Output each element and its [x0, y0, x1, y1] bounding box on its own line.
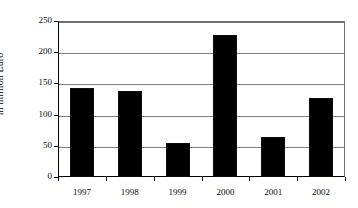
y-axis-tick — [54, 21, 58, 22]
x-axis-tick — [345, 177, 346, 181]
bar-2002 — [309, 98, 333, 177]
y-axis-tick — [54, 83, 58, 84]
y-axis-tick — [54, 146, 58, 147]
bar-1998 — [118, 91, 142, 177]
y-axis-tick-label: 200 — [12, 47, 52, 56]
bar-2000 — [213, 35, 237, 177]
x-axis-tick — [202, 177, 203, 181]
x-axis-tick-label: 2001 — [249, 187, 297, 197]
x-axis-tick-label: 2000 — [201, 187, 249, 197]
bar-1999 — [166, 143, 190, 177]
y-axis-tick-label: 150 — [12, 78, 52, 87]
x-axis-tick-label: 2002 — [297, 187, 345, 197]
x-axis-tick-label: 1998 — [106, 187, 154, 197]
bar-2001 — [261, 137, 285, 177]
y-axis-tick-label: 0 — [12, 172, 52, 181]
x-axis-tick-label: 1999 — [154, 187, 202, 197]
x-axis-tick-label: 1997 — [58, 187, 106, 197]
y-axis-tick-label: 250 — [12, 16, 52, 25]
bar-1997 — [70, 88, 94, 177]
y-axis-tick — [54, 52, 58, 53]
x-axis-tick — [249, 177, 250, 181]
bar-chart-figure: in million Euro 050100150200250 19971998… — [0, 0, 358, 208]
x-axis-tick — [58, 177, 59, 181]
y-axis-tick-label: 50 — [12, 141, 52, 150]
y-axis-tick-label: 100 — [12, 110, 52, 119]
y-axis-title: in million Euro — [0, 6, 7, 162]
x-axis-tick — [106, 177, 107, 181]
x-axis-tick — [154, 177, 155, 181]
x-axis-tick — [297, 177, 298, 181]
bars-layer — [58, 21, 345, 177]
y-axis-tick — [54, 115, 58, 116]
